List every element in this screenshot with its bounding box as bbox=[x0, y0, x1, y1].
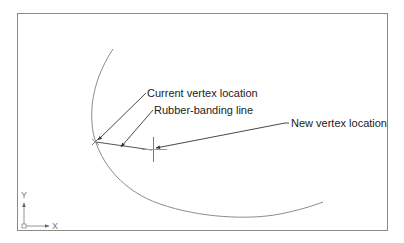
leader-rubber-band bbox=[121, 110, 153, 147]
ucs-y-label: Y bbox=[21, 190, 27, 200]
current-vertex-marker bbox=[92, 138, 99, 145]
crosshair-cursor bbox=[142, 137, 167, 162]
ucs-icon: Y X bbox=[21, 190, 58, 231]
ucs-x-label: X bbox=[52, 221, 58, 231]
label-current-vertex: Current vertex location bbox=[147, 87, 258, 99]
polyline-curve bbox=[92, 49, 323, 217]
label-new-vertex: New vertex location bbox=[291, 117, 387, 129]
drawing-canvas[interactable]: Current vertex location Rubber-banding l… bbox=[0, 0, 404, 243]
leader-new-vertex bbox=[156, 123, 285, 148]
label-rubber-band: Rubber-banding line bbox=[154, 104, 253, 116]
leader-current-vertex bbox=[98, 93, 146, 140]
